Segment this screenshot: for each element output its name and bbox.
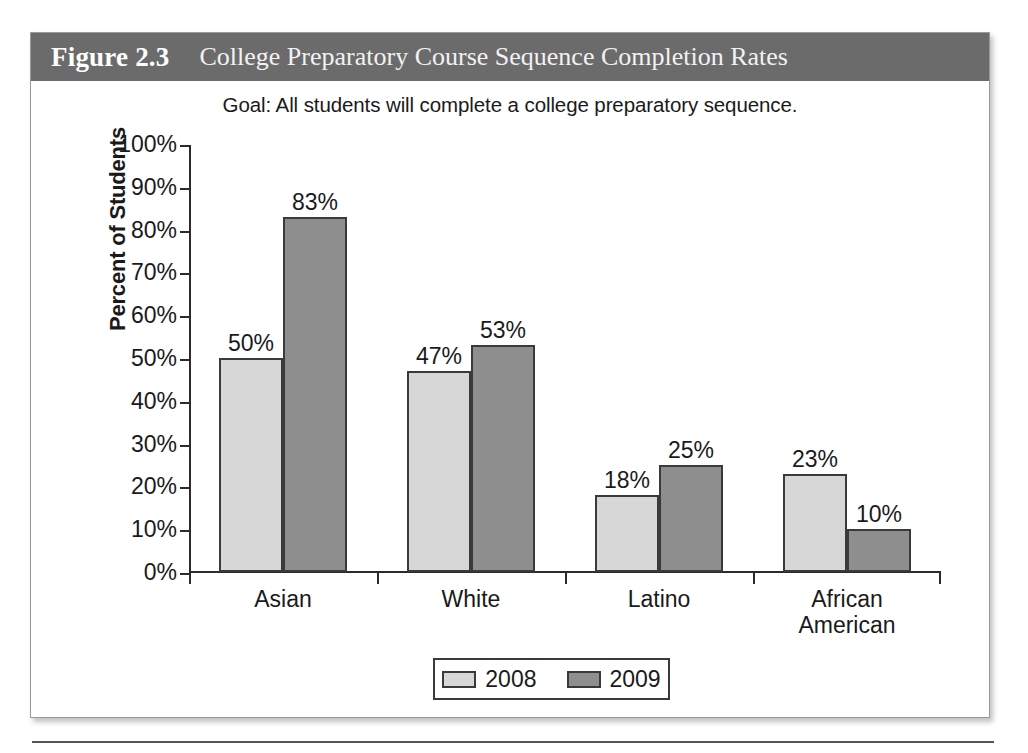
bar-value-label: 25% xyxy=(668,437,714,464)
legend-swatch-2009 xyxy=(567,671,601,688)
y-axis-tick xyxy=(180,188,189,190)
bar-value-label: 18% xyxy=(604,467,650,494)
x-axis-category-label: AfricanAmerican xyxy=(753,587,941,639)
bar-value-label: 23% xyxy=(792,446,838,473)
y-axis-tick xyxy=(180,273,189,275)
figure-title: College Preparatory Course Sequence Comp… xyxy=(200,42,788,72)
bar-value-label: 53% xyxy=(480,317,526,344)
bar-2009-0: 83% xyxy=(283,217,347,572)
bar-2008-2: 18% xyxy=(595,495,659,572)
x-axis-category-label: Asian xyxy=(189,587,377,613)
y-axis-line xyxy=(189,145,191,574)
bar-2008-0: 50% xyxy=(219,358,283,572)
legend-swatch-2008 xyxy=(442,671,476,688)
y-axis-tick xyxy=(180,316,189,318)
y-axis-tick xyxy=(180,530,189,532)
y-axis-tick-label: 90% xyxy=(131,174,177,201)
x-axis-tick xyxy=(565,573,567,584)
chart-legend: 20082009 xyxy=(433,658,670,700)
y-axis-title: Percent of Students xyxy=(105,41,131,331)
x-axis-tick xyxy=(753,573,755,584)
category-label-line: Asian xyxy=(189,587,377,613)
plot-area: 100%90%80%70%60%50%40%30%20%10%0% 50%47%… xyxy=(189,145,941,573)
page-rule xyxy=(32,741,994,743)
figure-container: Figure 2.3 College Preparatory Course Se… xyxy=(30,32,990,718)
y-axis-tick xyxy=(180,487,189,489)
y-axis-tick-label: 70% xyxy=(131,259,177,286)
y-axis-tick-label: 40% xyxy=(131,388,177,415)
legend-item-2009[interactable]: 2009 xyxy=(567,666,661,693)
y-axis-tick xyxy=(180,231,189,233)
y-axis-tick-label: 80% xyxy=(131,217,177,244)
chart-subtitle: Goal: All students will complete a colle… xyxy=(31,93,989,117)
x-axis-tick xyxy=(939,573,941,584)
category-label-line: Latino xyxy=(565,587,753,613)
chart-panel: Goal: All students will complete a colle… xyxy=(31,81,989,718)
y-axis-tick xyxy=(180,445,189,447)
legend-item-2008[interactable]: 2008 xyxy=(442,666,536,693)
y-axis-tick-label: 30% xyxy=(131,431,177,458)
y-axis-tick xyxy=(180,145,189,147)
bar-value-label: 50% xyxy=(228,330,274,357)
y-axis-tick-label: 20% xyxy=(131,473,177,500)
category-label-line: American xyxy=(753,613,941,639)
figure-header-bar: Figure 2.3 College Preparatory Course Se… xyxy=(31,33,989,81)
legend-label: 2009 xyxy=(610,666,661,693)
bar-value-label: 83% xyxy=(292,189,338,216)
x-axis-tick xyxy=(377,573,379,584)
bar-2009-3: 10% xyxy=(847,529,911,572)
category-label-line: White xyxy=(377,587,565,613)
y-axis-tick-label: 10% xyxy=(131,516,177,543)
x-axis-category-label: White xyxy=(377,587,565,613)
y-axis-tick-label: 50% xyxy=(131,345,177,372)
y-axis-tick xyxy=(180,359,189,361)
y-axis-tick-label: 100% xyxy=(118,131,177,158)
x-axis-tick xyxy=(189,573,191,584)
bar-2008-1: 47% xyxy=(407,371,471,572)
bar-2009-1: 53% xyxy=(471,345,535,572)
bar-value-label: 10% xyxy=(856,501,902,528)
y-axis-tick-label: 0% xyxy=(144,559,177,586)
y-axis-tick xyxy=(180,402,189,404)
y-axis-tick xyxy=(180,573,189,575)
bar-value-label: 47% xyxy=(416,343,462,370)
bar-2009-2: 25% xyxy=(659,465,723,572)
y-axis-tick-label: 60% xyxy=(131,302,177,329)
category-label-line: African xyxy=(753,587,941,613)
x-axis-category-label: Latino xyxy=(565,587,753,613)
legend-label: 2008 xyxy=(485,666,536,693)
bar-2008-3: 23% xyxy=(783,474,847,572)
